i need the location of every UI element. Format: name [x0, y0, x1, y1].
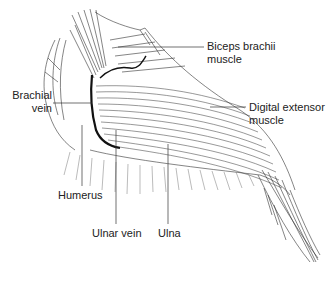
- label-digital-extensor-line2: muscle: [249, 114, 325, 127]
- label-ulnar-vein: Ulnar vein: [92, 227, 142, 240]
- label-digital-extensor: Digital extensor muscle: [249, 101, 325, 127]
- label-biceps-brachii: Biceps brachii muscle: [207, 40, 275, 66]
- label-brachial-vein: Brachial vein: [8, 89, 52, 115]
- label-brachial-line2: vein: [8, 102, 52, 115]
- label-brachial-line1: Brachial: [8, 89, 52, 102]
- label-biceps-line1: Biceps brachii: [207, 40, 275, 53]
- biceps-branch-vein: [100, 56, 146, 78]
- label-digital-extensor-line1: Digital extensor: [249, 101, 325, 114]
- wing-anatomy-drawing: [0, 0, 335, 283]
- label-humerus: Humerus: [58, 189, 103, 202]
- label-ulna: Ulna: [158, 227, 181, 240]
- label-biceps-line2: muscle: [207, 53, 275, 66]
